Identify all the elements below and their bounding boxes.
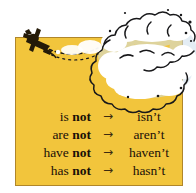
row-contraction: isn’t <box>121 108 183 125</box>
row-negative-word: not <box>72 163 91 178</box>
arrow-icon: → <box>95 126 121 143</box>
row-negative-word: not <box>72 127 91 142</box>
row-negative-word: not <box>72 109 91 124</box>
arrow-icon: → <box>95 162 121 179</box>
row-contraction: aren’t <box>121 126 183 143</box>
row-base-verb: is <box>60 109 72 124</box>
row-base-phrase: have not <box>15 144 95 161</box>
row-base-phrase: are not <box>15 126 95 143</box>
row-contraction: haven’t <box>121 144 183 161</box>
row-contraction: hasn’t <box>121 162 183 179</box>
row-negative-word: not <box>72 145 91 160</box>
contractions-table: is not → isn’t are not → aren’t have not… <box>15 105 183 183</box>
table-row: is not → isn’t <box>15 108 183 125</box>
row-base-phrase: has not <box>15 162 95 179</box>
illustration-figure: is not → isn’t are not → aren’t have not… <box>0 0 196 193</box>
table-row: has not → hasn’t <box>15 162 183 179</box>
row-base-verb: has <box>51 163 72 178</box>
arrow-icon: → <box>95 144 121 161</box>
table-row: have not → haven’t <box>15 144 183 161</box>
row-base-phrase: is not <box>15 108 95 125</box>
row-base-verb: have <box>43 145 72 160</box>
arrow-icon: → <box>95 108 121 125</box>
row-base-verb: are <box>52 127 72 142</box>
table-row: are not → aren’t <box>15 126 183 143</box>
